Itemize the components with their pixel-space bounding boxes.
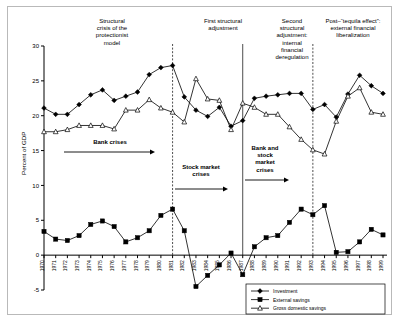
x-tick-label: 1981 xyxy=(168,260,174,271)
x-tick-label: 1987 xyxy=(238,260,244,271)
x-tick-label: 1991 xyxy=(284,260,290,271)
y-tick-label: 5 xyxy=(36,217,40,223)
data-point-marker xyxy=(112,224,116,228)
legend-label: Gross domestic savings xyxy=(273,305,327,311)
period-label-4-line3: liberalization xyxy=(317,32,389,39)
data-point-marker xyxy=(276,234,280,238)
annotation-bank-stock-crises-line4: crises xyxy=(242,167,288,174)
data-point-marker xyxy=(241,273,245,277)
period-label-1: Structural crisis of the protectionist m… xyxy=(73,18,151,47)
data-point-marker xyxy=(252,96,257,101)
data-point-marker xyxy=(65,238,69,242)
data-point-marker xyxy=(147,229,151,233)
data-point-marker xyxy=(89,222,93,226)
arrow-bank-crises xyxy=(64,150,155,155)
x-tick-label: 1974 xyxy=(86,260,92,271)
data-point-marker xyxy=(182,229,186,233)
annotation-bank-stock-crises: Bank and stock market crises xyxy=(242,145,288,174)
data-point-marker xyxy=(135,236,139,240)
y-tick-label: 25 xyxy=(32,78,39,84)
data-point-marker xyxy=(194,284,198,288)
period-label-3: Second structural adjustment: internal f… xyxy=(267,18,317,61)
data-point-marker xyxy=(229,127,234,132)
data-point-marker xyxy=(100,219,104,223)
y-tick-label: 20 xyxy=(32,113,39,119)
period-label-2: First structural adjustment xyxy=(186,18,260,32)
data-point-marker xyxy=(334,250,338,254)
data-point-marker xyxy=(205,96,210,101)
period-label-1-line4: model xyxy=(73,40,151,47)
series-line xyxy=(44,66,383,127)
period-label-3-line2: structural xyxy=(267,25,317,32)
period-label-2-line1: First structural xyxy=(186,18,260,25)
data-point-marker xyxy=(217,263,221,267)
data-point-marker xyxy=(159,213,163,217)
x-tick-label: 1980 xyxy=(156,260,162,271)
data-point-marker xyxy=(147,97,152,102)
data-point-marker xyxy=(369,227,373,231)
period-label-1-line2: crisis of the xyxy=(73,25,151,32)
data-point-marker xyxy=(42,229,46,233)
data-point-marker xyxy=(369,110,374,115)
data-point-marker xyxy=(275,92,280,97)
data-point-marker xyxy=(258,298,262,302)
annotation-bank-stock-crises-line1: Bank and xyxy=(242,145,288,152)
legend-label: External savings xyxy=(273,297,310,303)
x-tick-label: 1993 xyxy=(308,260,314,271)
annotation-stock-market-crises: Stock market crises xyxy=(166,164,236,178)
data-point-marker xyxy=(123,94,128,99)
period-label-4: Post–“tequila effect”: external financia… xyxy=(317,18,389,40)
plot-area: -505101520253019701971197219731974197519… xyxy=(0,0,399,322)
data-point-marker xyxy=(240,118,245,123)
period-label-4-line2: external financial xyxy=(317,25,389,32)
x-tick-label: 1988 xyxy=(249,260,255,271)
x-tick-label: 1994 xyxy=(320,260,326,271)
data-point-marker xyxy=(77,234,81,238)
data-point-marker xyxy=(54,237,58,241)
data-point-marker xyxy=(206,273,210,277)
data-point-marker xyxy=(381,233,385,237)
data-point-marker xyxy=(346,250,350,254)
x-tick-label: 1973 xyxy=(74,260,80,271)
period-label-1-line1: Structural xyxy=(73,18,151,25)
legend-item-external-savings[interactable]: External savings xyxy=(251,297,310,303)
figure-root: Percent of GDP -505101520253019701971197… xyxy=(0,0,399,322)
x-tick-label: 1989 xyxy=(261,260,267,271)
annotation-stock-market-crises-line1: Stock market xyxy=(166,164,236,171)
annotation-stock-market-crises-line2: crises xyxy=(166,171,236,178)
data-point-marker xyxy=(252,245,256,249)
data-point-marker xyxy=(147,72,152,77)
x-tick-label: 1976 xyxy=(109,260,115,271)
series-line xyxy=(44,206,383,287)
arrow-stock-market-crises xyxy=(175,187,228,192)
data-point-marker xyxy=(322,204,326,208)
y-tick-label: 0 xyxy=(36,252,40,258)
data-point-marker xyxy=(334,119,339,124)
data-point-marker xyxy=(311,213,315,217)
x-tick-label: 1998 xyxy=(366,260,372,271)
annotation-bank-crises-text: Bank crises xyxy=(56,139,164,146)
x-tick-label: 1971 xyxy=(51,260,57,271)
data-point-marker xyxy=(287,220,291,224)
legend-label: Investment xyxy=(273,288,298,294)
period-label-4-line1: Post–“tequila effect”: xyxy=(317,18,389,25)
period-label-3-line3: adjustment: xyxy=(267,32,317,39)
x-tick-label: 1992 xyxy=(296,260,302,271)
line-chart: -505101520253019701971197219731974197519… xyxy=(0,0,399,322)
x-tick-label: 1995 xyxy=(331,260,337,271)
data-point-marker xyxy=(358,240,362,244)
y-tick-label: 10 xyxy=(32,183,39,189)
period-label-3-line4: internal xyxy=(267,40,317,47)
x-tick-label: 1972 xyxy=(62,260,68,271)
data-point-marker xyxy=(229,251,233,255)
x-tick-label: 1975 xyxy=(97,260,103,271)
data-point-marker xyxy=(135,90,140,95)
data-point-marker xyxy=(158,65,163,70)
data-point-marker xyxy=(240,101,245,106)
y-tick-label: 30 xyxy=(32,43,39,49)
x-tick-label: 1984 xyxy=(203,260,209,271)
arrow-bank-stock-crises xyxy=(245,178,289,183)
data-point-marker xyxy=(299,207,303,211)
period-label-3-line1: Second xyxy=(267,18,317,25)
x-tick-label: 1986 xyxy=(226,260,232,271)
